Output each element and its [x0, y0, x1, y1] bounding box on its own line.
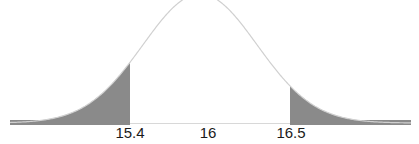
tick-label-left-cutoff: 15.4 [115, 124, 144, 141]
left-tail-shaded-region [10, 62, 130, 125]
normal-distribution-chart [0, 0, 419, 144]
tick-label-mean: 16 [200, 124, 217, 141]
bell-curve [10, 0, 411, 123]
tick-label-right-cutoff: 16.5 [276, 124, 305, 141]
